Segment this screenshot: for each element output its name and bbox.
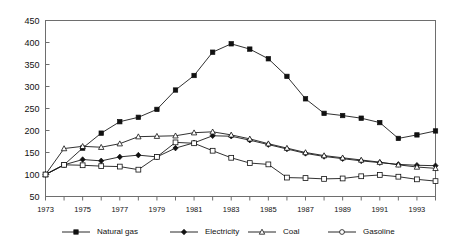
x-axis-tick-label: 1987 [297,205,314,214]
data-point [396,174,401,179]
data-point [340,113,344,117]
series-coal [43,129,438,177]
data-point [192,73,196,77]
y-axis-tick-label: 100 [24,170,39,180]
data-point [415,133,419,137]
legend-label: Gasoline [363,227,395,236]
y-axis-tick-label: 450 [24,16,39,26]
data-point [155,107,159,111]
data-point [80,163,85,168]
data-point [322,111,326,115]
data-point [433,129,437,133]
legend-item-coal[interactable]: Coal [248,227,300,236]
data-point [173,145,178,151]
x-axis-ticks [46,197,436,201]
legend-label: Coal [283,227,300,236]
y-axis-labels: 50100150200250300350400450 [24,16,39,202]
data-point [117,154,122,160]
data-point [415,177,420,182]
y-axis-tick-label: 50 [29,192,39,202]
y-axis-tick-label: 350 [24,60,39,70]
data-point [322,177,327,182]
data-point [229,155,234,160]
legend-marker-filled-diamond-icon [181,229,186,235]
data-point [136,152,141,158]
data-point [173,88,177,92]
y-axis-tick-label: 400 [24,38,39,48]
data-point [173,140,178,145]
data-point [99,164,104,169]
x-axis-tick-label: 1993 [409,205,426,214]
data-point [377,173,382,178]
data-point [303,176,308,181]
x-axis-tick-label: 1977 [111,205,128,214]
line-chart: 50100150200250300350400450 1973197519771… [0,0,451,249]
data-point [62,162,67,167]
x-axis-tick-label: 1975 [74,205,91,214]
data-point [285,74,289,78]
data-point [266,57,270,61]
data-point [117,164,122,169]
legend-marker-open-circle-icon [340,230,345,235]
data-point [303,97,307,101]
data-point [248,47,252,51]
x-axis-tick-label: 1979 [149,205,166,214]
data-point [136,167,141,172]
data-point [247,161,252,166]
data-point [266,162,271,167]
data-point [155,155,160,160]
legend-marker-filled-square-icon [74,230,78,234]
data-point [433,179,438,184]
series-line [46,44,436,175]
x-axis-tick-label: 1973 [37,205,54,214]
x-axis-tick-label: 1985 [260,205,277,214]
x-axis-tick-label: 1981 [186,205,203,214]
data-point [118,120,122,124]
data-point [229,42,233,46]
data-point [210,50,214,54]
data-point [80,157,85,163]
data-point [340,176,345,181]
data-point [359,116,363,120]
data-point [192,141,197,146]
data-point [99,131,103,135]
data-point [378,120,382,124]
series-electricity [43,133,438,177]
legend-item-electricity[interactable]: Electricity [170,227,239,236]
data-point [43,172,48,177]
series-natural-gas [43,42,437,177]
data-point [359,174,364,179]
y-axis-tick-label: 300 [24,82,39,92]
data-point [99,158,104,164]
y-axis-tick-label: 250 [24,104,39,114]
legend-label: Electricity [205,227,239,236]
data-point [210,148,215,153]
x-axis-tick-label: 1989 [334,205,351,214]
data-series-group [43,42,438,184]
x-axis-tick-label: 1983 [223,205,240,214]
x-axis-tick-label: 1991 [371,205,388,214]
legend-item-gasoline[interactable]: Gasoline [328,227,395,236]
x-axis-labels: 1973197519771979198119831985198719891991… [37,205,425,214]
data-point [396,136,400,140]
legend-item-natural-gas[interactable]: Natural gas [62,227,138,236]
y-axis-tick-label: 200 [24,126,39,136]
data-point [285,175,290,180]
chart-container: 50100150200250300350400450 1973197519771… [0,0,451,249]
legend-label: Natural gas [97,227,138,236]
chart-legend: Natural gasElectricityCoalGasoline [62,227,395,236]
data-point [136,115,140,119]
y-axis-tick-label: 150 [24,148,39,158]
